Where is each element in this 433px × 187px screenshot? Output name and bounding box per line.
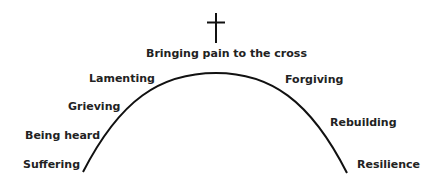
journey-arc (83, 73, 347, 173)
cross-icon (207, 13, 225, 43)
stage-resilience: Resilience (357, 159, 420, 171)
stage-lamenting: Lamenting (89, 73, 155, 85)
stage-rebuilding: Rebuilding (330, 117, 397, 129)
peak-label: Bringing pain to the cross (146, 48, 307, 60)
stage-forgiving: Forgiving (285, 74, 343, 86)
stage-suffering: Suffering (23, 159, 80, 171)
stage-being-heard: Being heard (25, 130, 100, 142)
stage-grieving: Grieving (68, 101, 120, 113)
